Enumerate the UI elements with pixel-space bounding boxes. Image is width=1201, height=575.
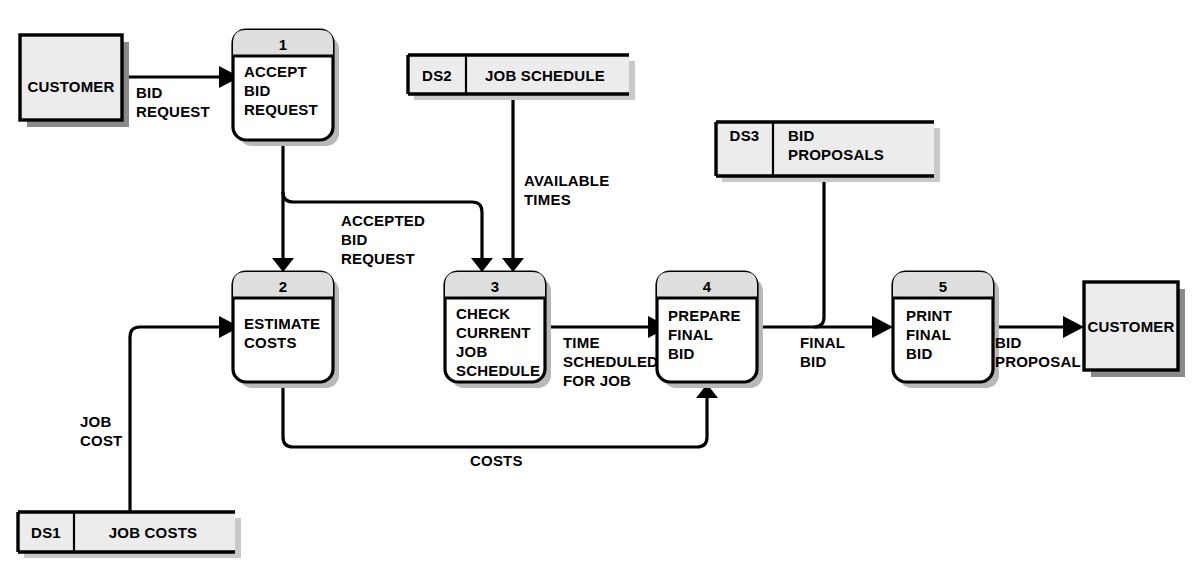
process-1-label-line2: BID	[244, 82, 270, 100]
process-4-label-line3: BID	[668, 345, 694, 363]
entity-customer-right-label: CUSTOMER	[1086, 318, 1176, 336]
process-4-number: 4	[657, 278, 757, 296]
process-3-label-line1: CHECK	[456, 305, 510, 323]
entity-customer-left-label: CUSTOMER	[24, 78, 118, 96]
process-2-number: 2	[233, 278, 333, 296]
flow-label-job-cost-line1: JOB	[80, 413, 111, 431]
process-3-label-line2: CURRENT	[456, 324, 531, 342]
flow-label-bid-request-line2: REQUEST	[136, 103, 210, 121]
flow-label-bid-request-line1: BID	[136, 84, 162, 102]
process-5-label-line1: PRINT	[906, 307, 952, 325]
flow-final-bid-connector	[757, 164, 893, 338]
flow-label-final-bid-line2: BID	[800, 353, 826, 371]
process-2-label-line2: COSTS	[244, 334, 297, 352]
flow-label-bid-proposal-line1: BID	[995, 334, 1021, 352]
process-1-label-line3: REQUEST	[244, 101, 318, 119]
diagram-shapes-layer	[0, 0, 1201, 575]
data-store-ds3-name-line2: PROPOSALS	[788, 146, 884, 164]
data-flow-diagram-canvas: CUSTOMER CUSTOMER DS2 JOB SCHEDULE DS3 B…	[0, 0, 1201, 575]
flow-label-final-bid-line1: FINAL	[800, 334, 845, 352]
flow-job-cost-connector	[130, 316, 240, 512]
flow-label-accepted-bid-request-line2: BID	[341, 231, 367, 249]
process-1-label-line1: ACCEPT	[244, 63, 307, 81]
data-store-ds3-name-line1: BID	[788, 127, 814, 145]
process-5-label-line3: BID	[906, 345, 932, 363]
data-store-ds2-code: DS2	[408, 67, 466, 85]
flow-label-accepted-bid-request-line3: REQUEST	[341, 250, 415, 268]
process-4-label-line1: PREPARE	[668, 307, 741, 325]
data-store-ds2-name: JOB SCHEDULE	[470, 67, 620, 85]
flow-label-time-scheduled-line3: FOR JOB	[563, 372, 631, 390]
process-5-label-line2: FINAL	[906, 326, 951, 344]
flow-costs-connector	[283, 382, 718, 447]
flow-label-available-times-line1: AVAILABLE	[524, 172, 609, 190]
flow-available-times-connector	[502, 100, 524, 272]
flow-label-costs: COSTS	[470, 452, 523, 470]
process-2-label-line1: ESTIMATE	[244, 315, 320, 333]
process-4-label-line2: FINAL	[668, 326, 713, 344]
flow-label-accepted-bid-request-line1: ACCEPTED	[341, 212, 425, 230]
process-5-number: 5	[893, 278, 993, 296]
data-store-ds1-code: DS1	[18, 524, 74, 542]
flow-label-job-cost-line2: COST	[80, 432, 122, 450]
data-store-ds3-code: DS3	[716, 127, 773, 145]
process-3-label-line4: SCHEDULE	[456, 362, 540, 380]
flow-label-time-scheduled-line2: SCHEDULED	[563, 353, 658, 371]
process-1-number: 1	[233, 36, 333, 54]
process-3-number: 3	[445, 278, 545, 296]
flow-label-available-times-line2: TIMES	[524, 191, 571, 209]
data-store-ds1-name: JOB COSTS	[78, 524, 228, 542]
process-3-label-line3: JOB	[456, 343, 487, 361]
flow-label-bid-proposal-line2: PROPOSAL	[995, 353, 1081, 371]
flow-label-time-scheduled-line1: TIME	[563, 334, 600, 352]
